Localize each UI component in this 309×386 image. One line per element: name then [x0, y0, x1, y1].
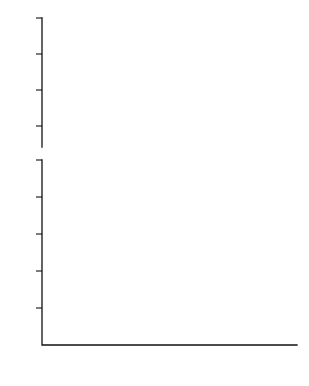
- figure-two-panel-scatter: [0, 0, 309, 386]
- panel-aescr: [36, 160, 297, 345]
- bottom-axes: [42, 160, 297, 345]
- top-y-ticks: [36, 18, 42, 126]
- panel-counting-efficiency: [36, 18, 42, 147]
- figure-canvas: [0, 0, 309, 386]
- bottom-y-ticks: [36, 160, 42, 308]
